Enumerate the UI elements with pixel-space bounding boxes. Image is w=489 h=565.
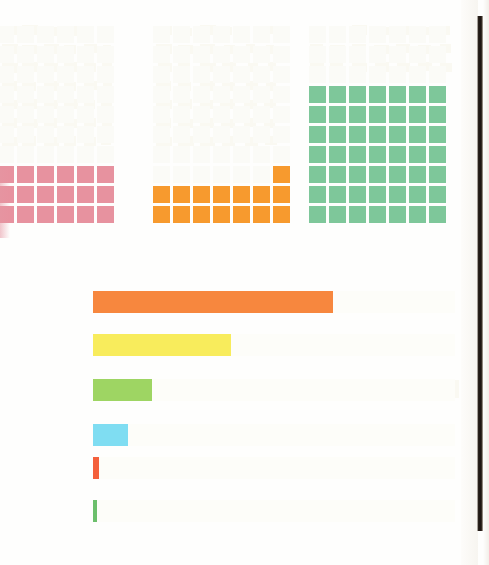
bar-row — [93, 291, 455, 313]
bar-row — [93, 334, 455, 356]
horizontal-bar-chart — [0, 0, 489, 565]
scan-edge-highlight — [483, 0, 489, 565]
scanned-page — [0, 0, 489, 565]
bar-row — [93, 500, 455, 522]
bar-track-remainder — [99, 457, 455, 479]
bar-track-remainder — [97, 500, 455, 522]
bar-track-remainder — [152, 379, 455, 401]
bar-track-remainder — [128, 424, 455, 446]
bar-value — [93, 291, 333, 313]
bar-value — [93, 457, 99, 479]
page-fold — [461, 0, 478, 565]
bar-value — [93, 424, 128, 446]
bar-value — [93, 379, 152, 401]
bar-row — [93, 379, 455, 401]
bar-value — [93, 334, 231, 356]
bar-track-remainder — [333, 291, 455, 313]
bar-row — [93, 424, 455, 446]
bar-track-remainder — [231, 334, 455, 356]
bar-row — [93, 457, 455, 479]
bar-value — [93, 500, 97, 522]
